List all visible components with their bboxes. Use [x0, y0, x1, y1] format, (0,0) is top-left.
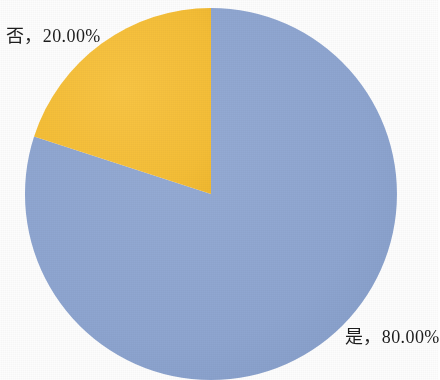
pie-label-minor-text: 否，20.00% — [6, 26, 101, 46]
pie-label-major: 是，80.00% — [345, 328, 440, 346]
pie-label-major-text: 是，80.00% — [345, 327, 440, 347]
pie-label-minor: 否，20.00% — [6, 27, 101, 45]
